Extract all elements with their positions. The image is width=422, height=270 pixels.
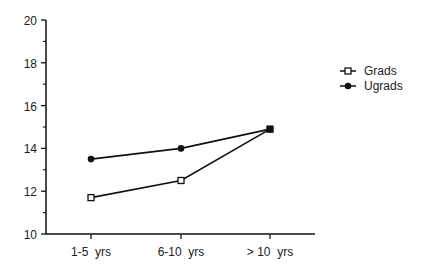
data-point bbox=[178, 178, 184, 184]
legend-label: Grads bbox=[364, 64, 397, 78]
series-grads bbox=[88, 126, 273, 200]
y-tick-label: 12 bbox=[24, 185, 38, 199]
x-tick-label: > 10 yrs bbox=[247, 245, 293, 259]
x-tick-label: 6-10 yrs bbox=[158, 245, 205, 259]
open-square-marker-icon bbox=[345, 68, 351, 74]
y-tick-label: 14 bbox=[24, 142, 38, 156]
legend: Grads Ugrads bbox=[340, 64, 403, 93]
legend-item-ugrads: Ugrads bbox=[340, 79, 403, 93]
data-point bbox=[88, 156, 95, 163]
line-chart: 101214161820 1-5 yrs6-10 yrs> 10 yrs Gra… bbox=[0, 0, 422, 270]
y-tick-label: 18 bbox=[24, 57, 38, 71]
filled-diamond-marker-icon bbox=[345, 83, 352, 90]
x-tick-label: 1-5 yrs bbox=[71, 245, 111, 259]
y-tick-label: 10 bbox=[24, 228, 38, 242]
data-point bbox=[267, 126, 274, 133]
y-tick-label: 16 bbox=[24, 100, 38, 114]
data-point bbox=[178, 145, 185, 152]
legend-item-grads: Grads bbox=[340, 64, 397, 78]
legend-label: Ugrads bbox=[364, 79, 403, 93]
data-point bbox=[88, 195, 94, 201]
y-tick-label: 20 bbox=[24, 14, 38, 28]
y-axis: 101214161820 bbox=[24, 14, 46, 242]
series-layer bbox=[88, 126, 274, 201]
x-axis: 1-5 yrs6-10 yrs> 10 yrs bbox=[46, 234, 315, 259]
